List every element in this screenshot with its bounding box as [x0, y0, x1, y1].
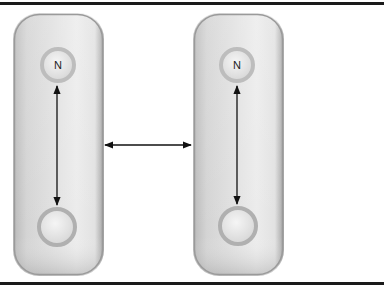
cell-diagram: N N [0, 0, 389, 291]
left-nucleus-label: N [54, 59, 62, 71]
right-bottom-circle [220, 208, 256, 244]
left-nucleus: N [42, 49, 74, 81]
right-cell: N [193, 13, 284, 276]
right-nucleus-label: N [233, 59, 241, 71]
left-bottom-circle [39, 209, 75, 245]
left-cell: N [13, 13, 104, 276]
right-nucleus: N [221, 49, 253, 81]
